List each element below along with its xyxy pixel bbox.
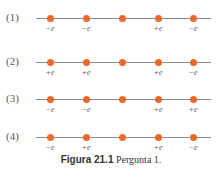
particle-dot [47,134,54,141]
caption-figure-number: Figura 21.1 [61,154,114,165]
charge-row-3: (3)−e−e+e+e [0,99,222,119]
charge-label: +e [154,105,163,114]
particle-dot [83,134,90,141]
charge-label: −e [46,143,55,152]
particle-dot [119,96,126,103]
row-label: (4) [6,130,19,142]
particle-dot [190,96,197,103]
figure-caption: Figura 21.1 Pergunta 1. [0,154,222,165]
particle-dot [190,134,197,141]
particle-dot [190,59,197,66]
charge-label: +e [154,143,163,152]
charge-label: −e [82,105,91,114]
charge-label: +e [154,24,163,33]
particle-dot [47,59,54,66]
charge-label: −e [46,24,55,33]
charge-label: −e [189,24,198,33]
particle-dot [155,59,162,66]
particle-dot [119,59,126,66]
caption-text: Pergunta 1. [116,154,161,165]
charge-label: +e [46,68,55,77]
charge-label: −e [189,143,198,152]
row-label: (2) [6,55,19,67]
particle-dot [155,134,162,141]
row-label: (1) [6,11,19,23]
particle-dot [155,15,162,22]
particle-dot [190,15,197,22]
row-label: (3) [6,92,19,104]
particle-dot [83,15,90,22]
charge-label: +e [82,143,91,152]
particle-dot [119,15,126,22]
charge-row-1: (1)−e−e+e−e [0,18,222,38]
charge-label: +e [82,68,91,77]
particle-dot [83,96,90,103]
charge-label: −e [46,105,55,114]
charge-row-2: (2)+e+e+e−e [0,62,222,82]
charge-label: +e [154,68,163,77]
charge-label: −e [189,68,198,77]
particle-dot [47,96,54,103]
particle-dot [155,96,162,103]
charge-label: +e [189,105,198,114]
charge-label: −e [82,24,91,33]
particle-dot [83,59,90,66]
particle-dot [47,15,54,22]
particle-dot [119,134,126,141]
